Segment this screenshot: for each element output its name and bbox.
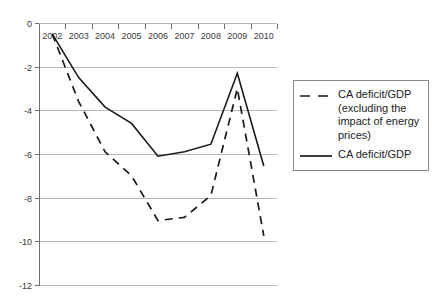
gridlines — [39, 24, 277, 286]
series-line-ca-deficit-excl-energy — [52, 34, 264, 236]
y-tick-label: -8 — [24, 194, 32, 204]
chart-legend: CA deficit/GDP (excluding the impact of … — [293, 80, 429, 171]
y-tick-marks — [35, 24, 39, 286]
x-tick-label: 2008 — [201, 31, 221, 41]
y-tick-label: -10 — [19, 237, 32, 247]
x-tick-label: 2006 — [148, 31, 168, 41]
y-tick-label: -6 — [24, 150, 32, 160]
x-tick-label: 2010 — [254, 31, 274, 41]
x-axis-tick-labels: 200220032004200520062007200820092010 — [42, 31, 274, 41]
solid-line-icon — [299, 149, 333, 163]
x-tick-label: 2007 — [174, 31, 194, 41]
y-tick-label: -2 — [24, 63, 32, 73]
dashed-line-icon — [299, 89, 333, 103]
y-axis-tick-labels: 0-2-4-6-8-10-12 — [19, 19, 32, 291]
y-tick-label: 0 — [27, 19, 32, 29]
x-tick-marks — [40, 24, 278, 29]
chart-figure: 0-2-4-6-8-10-12 200220032004200520062007… — [0, 0, 434, 304]
legend-label-ca-deficit: CA deficit/GDP — [338, 148, 411, 162]
y-tick-label: -4 — [24, 106, 32, 116]
series-line-ca-deficit — [52, 34, 264, 166]
legend-item-ca-deficit-excl-energy: CA deficit/GDP (excluding the impact of … — [299, 88, 422, 142]
x-tick-label: 2009 — [227, 31, 247, 41]
legend-label-ca-deficit-excl-energy: CA deficit/GDP (excluding the impact of … — [338, 88, 422, 142]
legend-item-ca-deficit: CA deficit/GDP — [299, 148, 422, 163]
x-tick-label: 2003 — [69, 31, 89, 41]
plot-area: 0-2-4-6-8-10-12 200220032004200520062007… — [0, 0, 290, 304]
y-tick-label: -12 — [19, 281, 32, 291]
x-tick-label: 2004 — [95, 31, 115, 41]
chart-svg: 0-2-4-6-8-10-12 200220032004200520062007… — [0, 0, 290, 304]
x-tick-label: 2005 — [122, 31, 142, 41]
